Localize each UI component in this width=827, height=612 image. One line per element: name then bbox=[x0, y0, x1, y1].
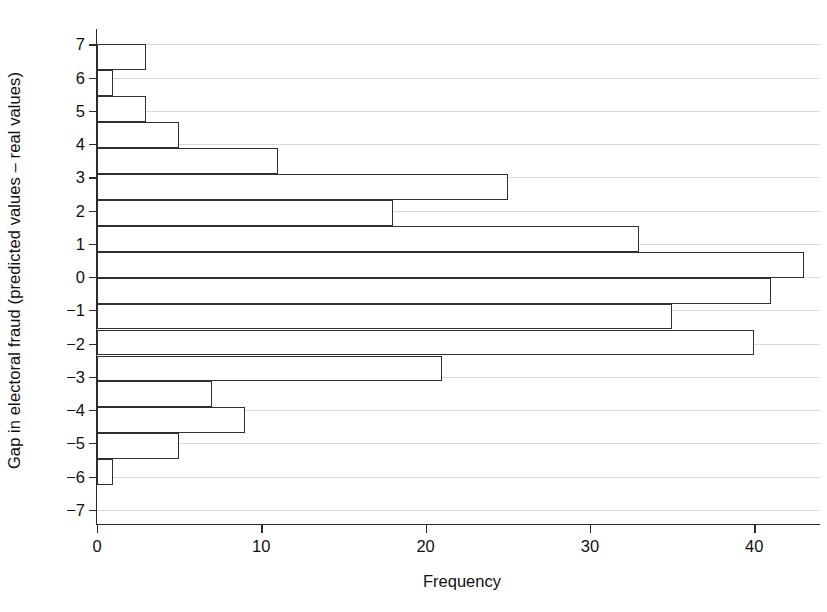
x-axis-tick bbox=[261, 525, 262, 533]
y-axis-tick-label: 5 bbox=[39, 103, 85, 120]
y-axis-tick-label: 4 bbox=[39, 136, 85, 153]
y-axis-tick-label: 0 bbox=[39, 269, 85, 286]
y-axis-tick bbox=[89, 510, 97, 511]
y-axis-title-text: Gap in electoral fraud (predicted values… bbox=[6, 71, 25, 468]
histogram-bar bbox=[97, 433, 179, 459]
x-axis-tick-label: 20 bbox=[396, 538, 456, 555]
x-axis-tick bbox=[426, 525, 427, 533]
y-axis-tick bbox=[89, 177, 97, 178]
x-axis-tick-label: 40 bbox=[724, 538, 784, 555]
y-axis-tick bbox=[89, 244, 97, 245]
x-axis-tick bbox=[97, 525, 98, 533]
y-axis-tick bbox=[89, 410, 97, 411]
y-axis-tick-label: −2 bbox=[39, 336, 85, 353]
y-axis-tick-label: 2 bbox=[39, 203, 85, 220]
x-axis-tick bbox=[754, 525, 755, 533]
y-axis-tick-label: −1 bbox=[39, 302, 85, 319]
y-axis-tick-label: −5 bbox=[39, 435, 85, 452]
histogram-bar bbox=[97, 122, 179, 148]
histogram-bar bbox=[97, 70, 113, 96]
histogram-figure: Gap in electoral fraud (predicted values… bbox=[0, 0, 827, 612]
gridline bbox=[97, 477, 820, 478]
x-axis-tick-labels: 010203040 bbox=[0, 538, 827, 562]
y-axis-tick-label: 6 bbox=[39, 70, 85, 87]
histogram-bar bbox=[97, 356, 442, 382]
y-axis-tick bbox=[89, 277, 97, 278]
y-axis-tick-label: −3 bbox=[39, 369, 85, 386]
histogram-bar bbox=[97, 226, 639, 252]
x-axis-line bbox=[96, 524, 820, 525]
plot-area bbox=[97, 31, 820, 523]
y-axis-tick bbox=[89, 377, 97, 378]
x-axis-tick-label: 30 bbox=[560, 538, 620, 555]
x-axis-tick-label: 0 bbox=[67, 538, 127, 555]
y-axis-tick bbox=[89, 78, 97, 79]
y-axis-tick-label: 7 bbox=[39, 36, 85, 53]
y-axis-tick bbox=[89, 443, 97, 444]
y-axis-tick bbox=[89, 344, 97, 345]
histogram-bar bbox=[97, 174, 508, 200]
y-axis-tick-label: −6 bbox=[39, 469, 85, 486]
histogram-bar bbox=[97, 278, 771, 304]
y-axis-tick bbox=[89, 111, 97, 112]
histogram-bar bbox=[97, 407, 245, 433]
gridline bbox=[97, 44, 820, 45]
histogram-bar bbox=[97, 44, 146, 70]
y-axis-tick bbox=[89, 44, 97, 45]
x-axis-title: Frequency bbox=[97, 572, 827, 591]
gridline bbox=[97, 144, 820, 145]
y-axis-tick-label: −7 bbox=[39, 502, 85, 519]
histogram-bar bbox=[97, 96, 146, 122]
y-axis-tick bbox=[89, 211, 97, 212]
gridline bbox=[97, 111, 820, 112]
y-axis-tick-label: 3 bbox=[39, 169, 85, 186]
histogram-bar bbox=[97, 459, 113, 485]
x-axis-tick-label: 10 bbox=[231, 538, 291, 555]
y-axis-tick-label: 1 bbox=[39, 236, 85, 253]
y-axis-tick-labels: 76543210−1−2−3−4−5−6−7 bbox=[34, 0, 85, 612]
y-axis-title: Gap in electoral fraud (predicted values… bbox=[0, 0, 30, 540]
histogram-bar bbox=[97, 381, 212, 407]
histogram-bar bbox=[97, 148, 278, 174]
y-axis-tick-label: −4 bbox=[39, 402, 85, 419]
gridline bbox=[97, 443, 820, 444]
y-axis-tick bbox=[89, 144, 97, 145]
histogram-bar bbox=[97, 304, 672, 330]
y-axis-tick bbox=[89, 310, 97, 311]
histogram-bar bbox=[97, 200, 393, 226]
gridline bbox=[97, 78, 820, 79]
histogram-bar bbox=[97, 252, 804, 278]
histogram-bar bbox=[97, 330, 754, 356]
gridline bbox=[97, 510, 820, 511]
x-axis-tick bbox=[590, 525, 591, 533]
y-axis-tick bbox=[89, 477, 97, 478]
